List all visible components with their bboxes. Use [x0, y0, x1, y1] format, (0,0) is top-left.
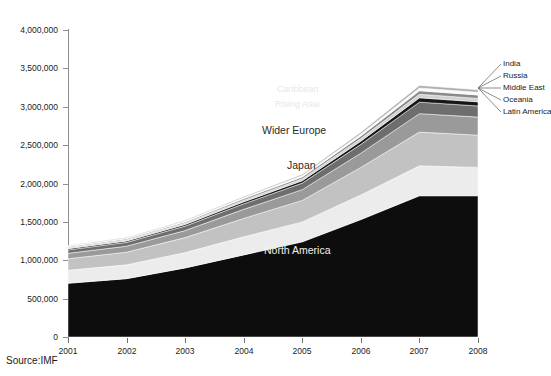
clipped-title: [0, 0, 548, 9]
y-tick-label: 500,000: [0, 295, 58, 304]
callout-label-middle-east: Middle East: [503, 84, 545, 92]
x-tick-mark: [302, 338, 303, 343]
x-tick-mark: [419, 338, 420, 343]
x-tick-label: 2002: [107, 347, 147, 356]
x-tick-label: 2005: [282, 347, 322, 356]
x-tick-label: 2003: [165, 347, 205, 356]
callout-label-oceania: Oceania: [503, 96, 533, 104]
callout-label-russia: Russia: [503, 72, 527, 80]
callout-label-india: India: [503, 60, 520, 68]
callout-label-latin-america: Latin America: [503, 108, 551, 116]
stacked-area-series: [68, 30, 478, 337]
y-tick-label: 3,000,000: [0, 103, 58, 112]
x-tick-mark: [244, 338, 245, 343]
x-tick-mark: [478, 338, 479, 343]
y-tick-label: 2,500,000: [0, 141, 58, 150]
y-tick-label: 2,000,000: [0, 180, 58, 189]
y-tick-label: 1,000,000: [0, 256, 58, 265]
callout-leader-lines: [455, 60, 505, 122]
x-tick-label: 2006: [341, 347, 381, 356]
y-tick-label: 0: [0, 333, 58, 342]
plot-area: North America Japan Wider Europe Rising …: [68, 30, 478, 337]
x-tick-mark: [185, 338, 186, 343]
x-tick-label: 2007: [399, 347, 439, 356]
x-tick-mark: [68, 338, 69, 343]
source-note: Source:IMF: [6, 355, 58, 366]
x-tick-mark: [361, 338, 362, 343]
y-tick-label: 3,500,000: [0, 64, 58, 73]
x-tick-label: 2004: [224, 347, 264, 356]
y-tick-label: 1,500,000: [0, 218, 58, 227]
y-tick-label: 4,000,000: [0, 26, 58, 35]
x-tick-label: 2008: [458, 347, 498, 356]
x-tick-mark: [127, 338, 128, 343]
